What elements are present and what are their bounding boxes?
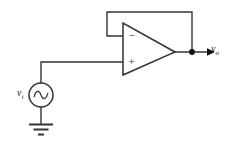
circuit-schematic-svg: − + (0, 0, 234, 152)
opamp-symbol: − + (123, 23, 175, 75)
circuit-diagram: − + vo vi (0, 0, 234, 152)
output-wire (175, 48, 215, 56)
output-voltage-label: vo (211, 44, 219, 57)
input-voltage-label: vi (17, 88, 23, 101)
input-wire (41, 62, 123, 83)
ground-symbol (29, 125, 53, 135)
ac-source-symbol (29, 83, 53, 124)
inverting-input-symbol: − (128, 29, 134, 41)
noninverting-input-symbol: + (128, 55, 134, 67)
output-junction-dot (189, 49, 195, 55)
output-voltage-subscript: o (215, 49, 219, 57)
input-voltage-subscript: i (21, 93, 23, 101)
